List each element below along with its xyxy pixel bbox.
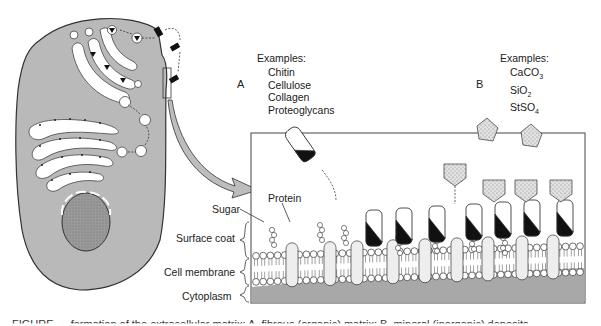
label-protein: Protein	[268, 192, 301, 204]
membrane-detail-panel	[251, 118, 585, 303]
panel-b-examples-list: CaCO3 SiO2 StSO4	[510, 66, 543, 119]
panel-a-examples-list: Chitin Cellulose Collagen Proteoglycans	[268, 66, 335, 116]
example-item: Collagen	[268, 91, 335, 104]
magnify-arrow	[168, 100, 258, 198]
panel-b-letter: B	[476, 78, 483, 90]
label-cytoplasm: Cytoplasm	[182, 290, 232, 302]
example-item: Cellulose	[268, 79, 335, 92]
example-item: Proteoglycans	[268, 104, 335, 117]
example-item: CaCO3	[510, 66, 543, 84]
panel-a-letter: A	[237, 78, 244, 90]
panel-b-examples-heading: Examples:	[500, 52, 549, 64]
cell-illustration	[16, 19, 258, 290]
example-item: StSO4	[510, 101, 543, 119]
label-cell-membrane: Cell membrane	[164, 266, 235, 278]
example-item: Chitin	[268, 66, 335, 79]
example-item: SiO2	[510, 84, 543, 102]
diagram-canvas	[0, 0, 601, 326]
label-surface-coat: Surface coat	[176, 232, 235, 244]
label-sugar: Sugar	[212, 203, 240, 215]
panel-a-examples-heading: Examples:	[257, 52, 306, 64]
